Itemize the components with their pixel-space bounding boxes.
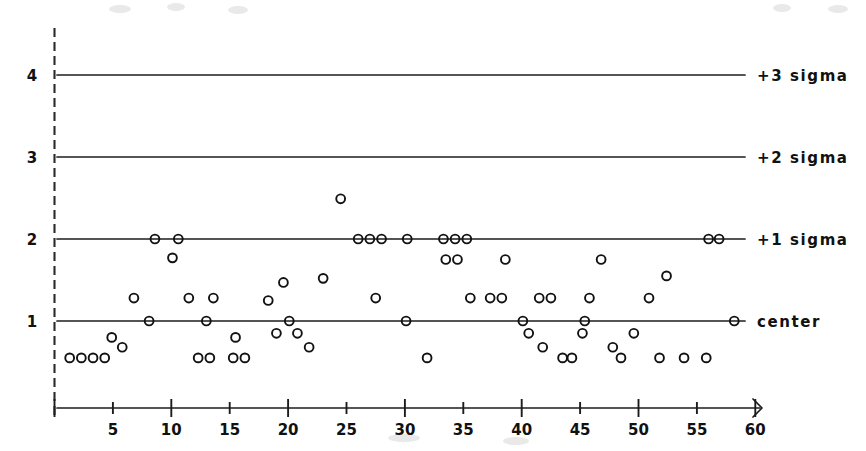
data-point bbox=[423, 354, 432, 363]
x-tick-label-50: 50 bbox=[628, 421, 649, 439]
data-point bbox=[205, 354, 214, 363]
data-points bbox=[65, 194, 738, 362]
data-point bbox=[441, 255, 450, 264]
data-point bbox=[229, 354, 238, 363]
x-tick-label-5: 5 bbox=[108, 421, 118, 439]
x-tick-label-40: 40 bbox=[511, 421, 532, 439]
data-point bbox=[107, 333, 116, 342]
x-tick-label-45: 45 bbox=[570, 421, 591, 439]
data-point bbox=[279, 278, 288, 287]
data-point bbox=[293, 329, 302, 338]
y-tick-label-2: 2 bbox=[27, 231, 37, 249]
data-point bbox=[497, 294, 506, 303]
data-point bbox=[272, 329, 281, 338]
data-point bbox=[100, 354, 109, 363]
data-point bbox=[486, 294, 495, 303]
data-point bbox=[547, 294, 556, 303]
control-chart: +3 sigma+2 sigma+1 sigmacenter 1234 5101… bbox=[0, 0, 866, 451]
data-point bbox=[629, 329, 638, 338]
y-tick-label-1: 1 bbox=[27, 313, 37, 331]
data-point bbox=[77, 354, 86, 363]
data-point bbox=[568, 354, 577, 363]
data-point bbox=[662, 272, 671, 281]
data-point bbox=[578, 329, 587, 338]
data-point bbox=[130, 294, 139, 303]
x-tick-label-10: 10 bbox=[161, 421, 182, 439]
data-point bbox=[168, 253, 177, 262]
data-point bbox=[645, 294, 654, 303]
data-point bbox=[240, 354, 249, 363]
data-point bbox=[264, 296, 273, 305]
data-point bbox=[617, 354, 626, 363]
data-point bbox=[608, 343, 617, 352]
data-point bbox=[524, 329, 533, 338]
control-line-label-plus2sigma: +2 sigma bbox=[757, 149, 849, 167]
data-point bbox=[538, 343, 547, 352]
data-point bbox=[501, 255, 510, 264]
data-point bbox=[65, 354, 74, 363]
data-point bbox=[371, 294, 380, 303]
data-point bbox=[585, 294, 594, 303]
control-line-label-plus3sigma: +3 sigma bbox=[757, 67, 849, 85]
x-tick-label-25: 25 bbox=[336, 421, 357, 439]
data-point bbox=[655, 354, 664, 363]
data-point bbox=[680, 354, 689, 363]
data-point bbox=[209, 294, 218, 303]
control-limit-lines bbox=[57, 75, 745, 321]
y-tick-label-3: 3 bbox=[27, 149, 37, 167]
data-point bbox=[118, 343, 127, 352]
data-point bbox=[466, 294, 475, 303]
data-point bbox=[535, 294, 544, 303]
control-line-label-center: center bbox=[757, 313, 821, 331]
x-tick-label-30: 30 bbox=[394, 421, 415, 439]
data-point bbox=[558, 354, 567, 363]
data-point bbox=[702, 354, 711, 363]
data-point bbox=[89, 354, 98, 363]
data-point bbox=[184, 294, 193, 303]
x-tick-label-60: 60 bbox=[745, 421, 766, 439]
control-limit-labels: +3 sigma+2 sigma+1 sigmacenter bbox=[757, 67, 849, 331]
y-axis-tick-labels: 1234 bbox=[27, 67, 37, 331]
x-axis-tick-labels: 51015202530354045505560 bbox=[108, 421, 766, 439]
control-line-label-plus1sigma: +1 sigma bbox=[757, 231, 849, 249]
data-point bbox=[597, 255, 606, 264]
x-tick-label-35: 35 bbox=[453, 421, 474, 439]
control-chart-canvas: +3 sigma+2 sigma+1 sigmacenter 1234 5101… bbox=[0, 0, 866, 451]
data-point bbox=[453, 255, 462, 264]
y-tick-label-4: 4 bbox=[27, 67, 37, 85]
data-point bbox=[305, 343, 314, 352]
x-tick-label-15: 15 bbox=[219, 421, 240, 439]
x-tick-label-55: 55 bbox=[686, 421, 707, 439]
scan-artifacts bbox=[109, 3, 848, 445]
data-point bbox=[231, 333, 240, 342]
data-point bbox=[194, 354, 203, 363]
x-tick-label-20: 20 bbox=[278, 421, 299, 439]
data-point bbox=[319, 274, 328, 283]
data-point bbox=[336, 194, 345, 203]
